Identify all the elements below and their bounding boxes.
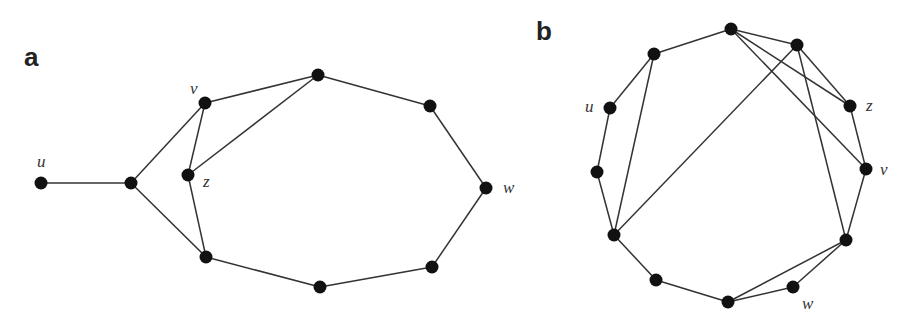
- graph-edge: [432, 188, 486, 267]
- graph-node: [650, 274, 663, 287]
- graph-panel-a: auvzw: [24, 42, 515, 294]
- graph-node: [424, 100, 437, 113]
- graph-edge: [430, 106, 486, 188]
- graph-node: [312, 69, 325, 82]
- graph-edge: [731, 29, 797, 45]
- node-label: w: [503, 178, 515, 197]
- node-label: v: [190, 79, 198, 98]
- graph-edge: [614, 45, 797, 235]
- node-label: u: [37, 152, 46, 171]
- graph-node: [480, 182, 493, 195]
- graph-node: [791, 39, 804, 52]
- graph-node: [844, 100, 857, 113]
- graph-edge: [131, 183, 206, 257]
- panel-label: a: [24, 42, 39, 72]
- graph-node: [608, 229, 621, 242]
- node-label: z: [865, 96, 873, 115]
- graph-edge: [320, 267, 432, 287]
- panel-label: b: [536, 16, 552, 46]
- graph-node: [182, 169, 195, 182]
- graph-edge: [206, 257, 320, 287]
- graph-node: [648, 48, 661, 61]
- graph-node: [787, 281, 800, 294]
- graph-edge: [614, 235, 656, 280]
- graph-node: [604, 102, 617, 115]
- graph-edge: [188, 75, 318, 175]
- graph-edge: [614, 54, 654, 235]
- graph-node: [200, 251, 213, 264]
- graph-edge: [318, 75, 430, 106]
- graph-edge: [597, 172, 614, 235]
- graph-node: [314, 281, 327, 294]
- graph-node: [426, 261, 439, 274]
- graph-node: [199, 97, 212, 110]
- graph-edge: [654, 29, 731, 54]
- graph-node: [860, 163, 873, 176]
- graph-node: [35, 177, 48, 190]
- graph-node: [840, 234, 853, 247]
- node-label: u: [585, 97, 594, 116]
- graph-edge: [850, 106, 866, 169]
- graph-node: [722, 296, 735, 309]
- graph-edge: [656, 280, 728, 302]
- node-label: v: [880, 160, 888, 179]
- graph-node: [591, 166, 604, 179]
- node-label: w: [802, 294, 814, 313]
- graph-node: [125, 177, 138, 190]
- graph-node: [725, 23, 738, 36]
- graph-edge: [728, 287, 793, 302]
- graph-panel-b: buzvw: [536, 16, 888, 313]
- graph-figure: auvzwbuzvw: [0, 0, 919, 327]
- graph-edge: [205, 75, 318, 103]
- graph-edge: [728, 240, 846, 302]
- graph-edge: [846, 169, 866, 240]
- graph-edge: [597, 108, 610, 172]
- node-label: z: [202, 172, 210, 191]
